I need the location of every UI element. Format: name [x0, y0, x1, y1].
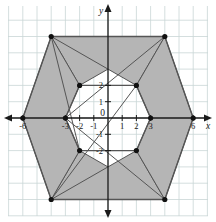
x-tick-label: 2 — [134, 121, 138, 131]
vertex-point — [162, 197, 167, 202]
coordinate-figure: -6-3-2-101236-2-112xy — [0, 0, 216, 222]
x-tick-label: 1 — [120, 121, 124, 131]
vertex-point — [77, 83, 82, 88]
y-axis-label: y — [98, 6, 104, 16]
vertex-point — [49, 197, 54, 202]
origin-label: 0 — [100, 108, 105, 118]
x-axis-label: x — [205, 121, 211, 131]
vertex-point — [49, 34, 54, 39]
vertex-point — [148, 115, 153, 120]
vertex-point — [63, 115, 68, 120]
vertex-point — [20, 115, 25, 120]
y-tick-label: 2 — [99, 80, 103, 90]
x-tick-label: -3 — [62, 121, 69, 131]
x-tick-label: -6 — [19, 121, 26, 131]
x-tick-label: 6 — [191, 121, 195, 131]
y-tick-label: 1 — [99, 97, 103, 107]
vertex-point — [134, 148, 139, 153]
vertex-point — [162, 34, 167, 39]
hexagon-plot: -6-3-2-101236-2-112xy — [0, 0, 216, 222]
vertex-point — [134, 83, 139, 88]
y-tick-label: -1 — [96, 129, 103, 139]
vertex-point — [77, 148, 82, 153]
y-tick-label: -2 — [96, 146, 103, 156]
vertex-point — [191, 115, 196, 120]
x-tick-label: -2 — [76, 121, 83, 131]
x-tick-label: 3 — [148, 121, 152, 131]
